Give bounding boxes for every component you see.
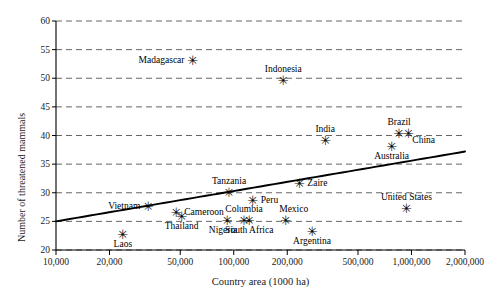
data-point-label: Madagascar	[139, 55, 185, 65]
data-point-label: Laos	[114, 239, 132, 249]
x-tick-label: 50,000	[167, 257, 193, 267]
data-point-label: Australia	[374, 151, 409, 161]
scatter-plot-figure: Number of threatened mammals Country are…	[0, 0, 498, 302]
y-tick-label: 30	[24, 188, 50, 198]
data-point-label: South Africa	[225, 225, 273, 235]
data-point-label: India	[315, 124, 335, 134]
x-tick-label: 1,000,000	[392, 257, 430, 267]
data-point-label: United States	[381, 192, 432, 202]
data-point-label: Argentina	[293, 236, 331, 246]
data-point-label: China	[412, 135, 435, 145]
x-axis-title: Country area (1000 ha)	[212, 276, 310, 287]
x-tick-label: 500,000	[343, 257, 374, 267]
x-tick-label: 100,000	[218, 257, 249, 267]
x-tick-label: 10,000	[43, 257, 69, 267]
data-point-label: Peru	[261, 195, 278, 205]
data-point-label: Zaire	[307, 178, 327, 188]
y-tick-label: 35	[24, 159, 50, 169]
y-tick-label: 55	[24, 45, 50, 55]
y-tick-label: 20	[24, 245, 50, 255]
y-tick-label: 45	[24, 102, 50, 112]
y-tick-label: 60	[24, 16, 50, 26]
data-point-label: Vietnam	[108, 201, 140, 211]
data-point-label: Tanzania	[212, 176, 246, 186]
data-point-label: Columbia	[225, 204, 262, 214]
data-point-label: Thailand	[165, 221, 199, 231]
x-tick-label: 200,000	[272, 257, 303, 267]
data-point-label: Brazil	[388, 117, 411, 127]
data-point-label: Cameroon	[184, 207, 224, 217]
y-tick-label: 40	[24, 131, 50, 141]
x-tick-label: 20,000	[96, 257, 122, 267]
y-tick-label: 50	[24, 73, 50, 83]
x-tick-label: 2,000,000	[446, 257, 484, 267]
y-tick-label: 25	[24, 216, 50, 226]
data-point-label: Indonesia	[265, 64, 302, 74]
data-point-label: Mexico	[279, 204, 308, 214]
